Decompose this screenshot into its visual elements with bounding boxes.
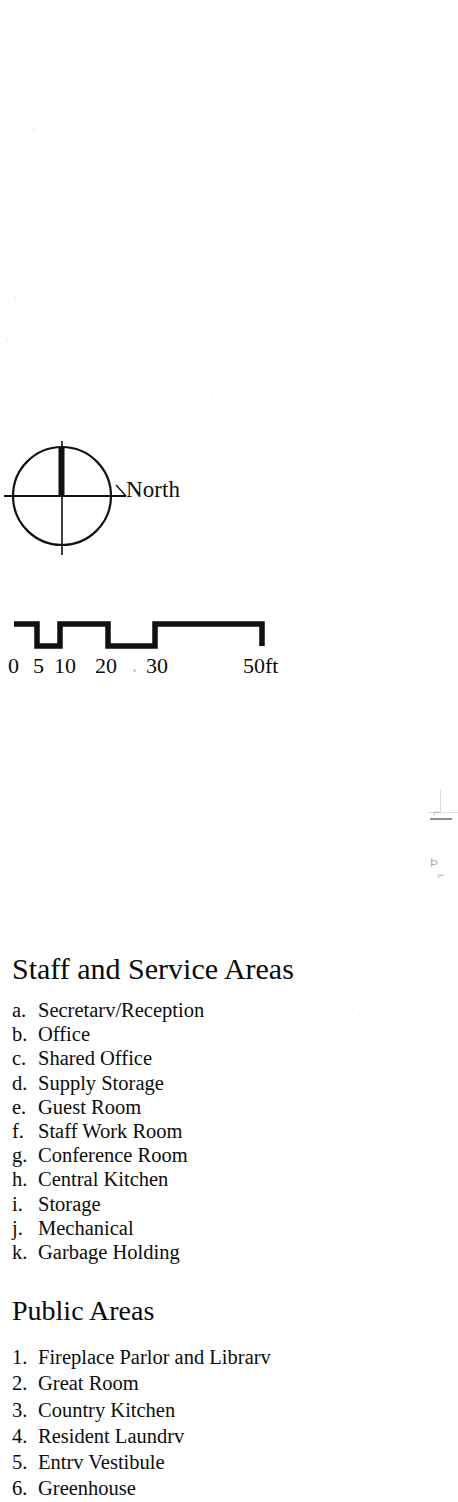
legend-item-marker: e. (12, 1095, 38, 1119)
scan-speckle (66, 311, 68, 313)
legend-item-marker: c. (12, 1046, 38, 1070)
legend-item: i.Storage (12, 1192, 204, 1216)
legend-item-marker: a. (12, 998, 38, 1022)
legend-item-marker: b. (12, 1022, 38, 1046)
scan-speckle (300, 1310, 302, 1312)
scan-speckle (211, 392, 213, 394)
legend-item-marker: 4. (12, 1423, 38, 1449)
legend-item-label: Guest Room (38, 1095, 141, 1119)
scale-bar-icon (0, 616, 300, 658)
legend-item: b.Office (12, 1022, 204, 1046)
legend-item-label: Resident Laundrv (38, 1423, 184, 1449)
scale-label-30: 30 (146, 655, 168, 677)
legend-item-marker: h. (12, 1167, 38, 1191)
north-label: North (126, 478, 180, 501)
staff-area-legend-list: a.Secretarv/Reception b.Office c.Shared … (12, 998, 204, 1264)
legend-item: d.Supply Storage (12, 1071, 204, 1095)
legend-item-label: Entrv Vestibule (38, 1449, 165, 1475)
legend-item-label: Conference Room (38, 1143, 188, 1167)
staff-section-heading: Staff and Service Areas (12, 954, 294, 984)
scan-speckle (6, 339, 9, 343)
legend-item-marker: 1. (12, 1344, 38, 1370)
legend-item-marker: j. (12, 1216, 38, 1240)
legend-item: h.Central Kitchen (12, 1167, 204, 1191)
legend-item: e.Guest Room (12, 1095, 204, 1119)
legend-item-label: Supply Storage (38, 1071, 164, 1095)
public-section-heading: Public Areas (12, 1297, 154, 1325)
scale-bar-labels: 0 5 10 20 30 50ft (0, 655, 330, 685)
legend-item-label: Secretarv/Reception (38, 998, 204, 1022)
scale-label-10: 10 (54, 655, 76, 677)
scale-label-5: 5 (33, 655, 44, 677)
legend-page: North 0 5 10 20 30 50ft ⌐ Þ ⌐ Staff and … (0, 0, 458, 1502)
plan-fragment-mark: ⌐ (433, 806, 440, 818)
legend-item: 3.Country Kitchen (12, 1397, 271, 1423)
scale-label-0: 0 (8, 655, 19, 677)
scan-speckle (213, 900, 215, 902)
legend-item: f.Staff Work Room (12, 1119, 204, 1143)
scan-speckle (133, 669, 136, 672)
scan-speckle (300, 730, 302, 732)
legend-item-marker: d. (12, 1071, 38, 1095)
legend-item: a.Secretarv/Reception (12, 998, 204, 1022)
legend-item-label: Storage (38, 1192, 101, 1216)
legend-item-label: Garbage Holding (38, 1240, 180, 1264)
legend-item-marker: 5. (12, 1449, 38, 1475)
legend-item: j.Mechanical (12, 1216, 204, 1240)
legend-item-label: Fireplace Parlor and Librarv (38, 1344, 271, 1370)
legend-item-label: Shared Office (38, 1046, 152, 1070)
legend-item-label: Office (38, 1022, 90, 1046)
scan-speckle (152, 185, 154, 187)
legend-item: c.Shared Office (12, 1046, 204, 1070)
legend-item: 6.Greenhouse (12, 1475, 271, 1501)
legend-item-label: Greenhouse (38, 1475, 136, 1501)
scale-label-50ft: 50ft (243, 655, 278, 677)
scan-speckle (352, 1008, 354, 1010)
legend-item: 2.Great Room (12, 1370, 271, 1396)
legend-item: k.Garbage Holding (12, 1240, 204, 1264)
legend-item: g.Conference Room (12, 1143, 204, 1167)
legend-item-marker: f. (12, 1119, 38, 1143)
public-area-legend-list: 1.Fireplace Parlor and Librarv 2.Great R… (12, 1344, 271, 1502)
legend-item-label: Great Room (38, 1370, 139, 1396)
legend-item-label: Staff Work Room (38, 1119, 183, 1143)
scale-label-20: 20 (95, 655, 117, 677)
legend-item-marker: 2. (12, 1370, 38, 1396)
north-compass-icon (0, 437, 215, 567)
legend-item: 4.Resident Laundrv (12, 1423, 271, 1449)
plan-fragment-hairline (440, 790, 441, 812)
legend-item-marker: i. (12, 1192, 38, 1216)
scan-speckle (84, 268, 86, 270)
legend-item-marker: 6. (12, 1475, 38, 1501)
legend-item-marker: k. (12, 1240, 38, 1264)
legend-item-marker: g. (12, 1143, 38, 1167)
scan-speckle (32, 128, 35, 131)
plan-fragment-mark: ⌐ (437, 869, 444, 881)
legend-item: 1.Fireplace Parlor and Librarv (12, 1344, 271, 1370)
legend-item: 5.Entrv Vestibule (12, 1449, 271, 1475)
scan-speckle (14, 297, 17, 300)
scan-speckle (160, 410, 162, 412)
legend-item-label: Central Kitchen (38, 1167, 168, 1191)
legend-item-label: Mechanical (38, 1216, 134, 1240)
legend-item-marker: 3. (12, 1397, 38, 1423)
legend-item-label: Country Kitchen (38, 1397, 175, 1423)
